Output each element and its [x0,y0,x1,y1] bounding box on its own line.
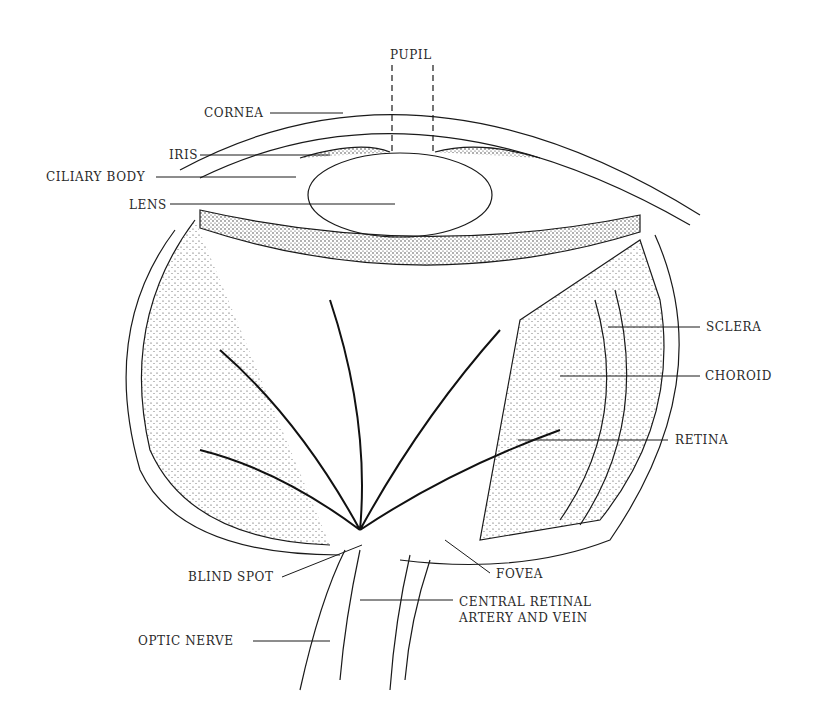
eye-illustration [0,0,818,724]
label-blind-spot: BLIND SPOT [188,570,274,584]
label-cornea: CORNEA [204,106,264,120]
label-central-retinal-line1: CENTRAL RETINAL [459,595,592,609]
label-iris: IRIS [169,148,198,162]
label-optic-nerve: OPTIC NERVE [138,634,234,648]
label-pupil: PUPIL [390,48,432,62]
label-ciliary-body: CILIARY BODY [46,170,145,184]
label-fovea: FOVEA [496,567,543,581]
label-sclera: SCLERA [706,320,761,334]
label-retina: RETINA [675,433,728,447]
eye-diagram: PUPIL CORNEA IRIS CILIARY BODY LENS SCLE… [0,0,818,724]
label-central-retinal-line2: ARTERY AND VEIN [459,611,588,625]
label-choroid: CHOROID [705,369,772,383]
label-lens: LENS [129,198,167,212]
